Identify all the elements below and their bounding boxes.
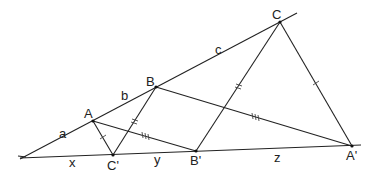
label-bprime: B' (190, 153, 201, 168)
label-cprime: C' (107, 158, 119, 173)
label-segment-c: c (215, 42, 222, 57)
label-segment-y: y (154, 152, 161, 167)
label-segment-b: b (121, 88, 128, 103)
tick-mark (142, 132, 143, 138)
segment-cprime-b (113, 87, 156, 155)
tick-mark (145, 133, 146, 139)
label-aprime: A' (346, 148, 357, 163)
tick-mark (252, 113, 253, 119)
label-a: A (84, 106, 93, 121)
point-b (154, 85, 157, 88)
tick-mark (255, 114, 256, 120)
tick-mark (258, 115, 259, 121)
point-cprime (111, 153, 114, 156)
label-segment-z: z (274, 150, 281, 165)
geometry-diagram: A B C C' B' A' a b c x y z (0, 0, 379, 173)
label-c: C (272, 7, 281, 22)
tick-mark (148, 134, 149, 140)
label-segment-a: a (59, 126, 67, 141)
label-segment-x: x (69, 155, 76, 170)
label-b: B (146, 74, 155, 89)
segment-bprime-c (196, 22, 280, 151)
